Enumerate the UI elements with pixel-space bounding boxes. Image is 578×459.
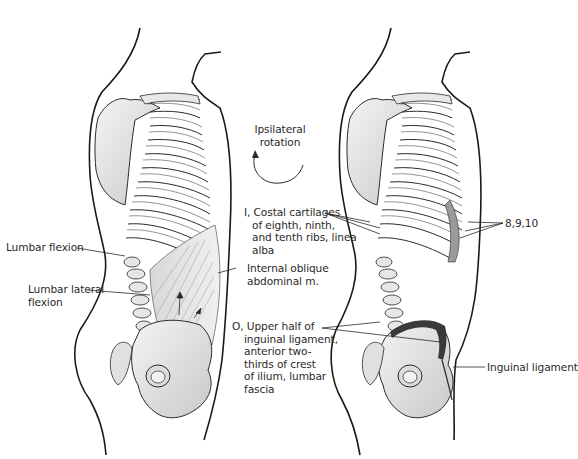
label-lumbar-lateral-flexion: Lumbar lateral flexion xyxy=(28,283,104,308)
label-ribs-8-9-10: 8,9,10 xyxy=(505,217,538,230)
rotation-arrow-icon xyxy=(254,155,303,183)
label-internal-oblique: Internal oblique abdominal m. xyxy=(247,262,329,287)
label-lumbar-flexion: Lumbar flexion xyxy=(6,241,84,254)
label-insertion: I, Costal cartilages of eighth, ninth, a… xyxy=(244,206,357,256)
arrow-head-icon xyxy=(252,150,259,158)
label-inguinal-ligament: Inguinal ligament xyxy=(487,361,578,374)
left-torso xyxy=(75,28,231,455)
label-origin: O, Upper half of inguinal ligament, ante… xyxy=(232,320,338,396)
label-ipsilateral-rotation: Ipsilateral rotation xyxy=(250,123,310,148)
